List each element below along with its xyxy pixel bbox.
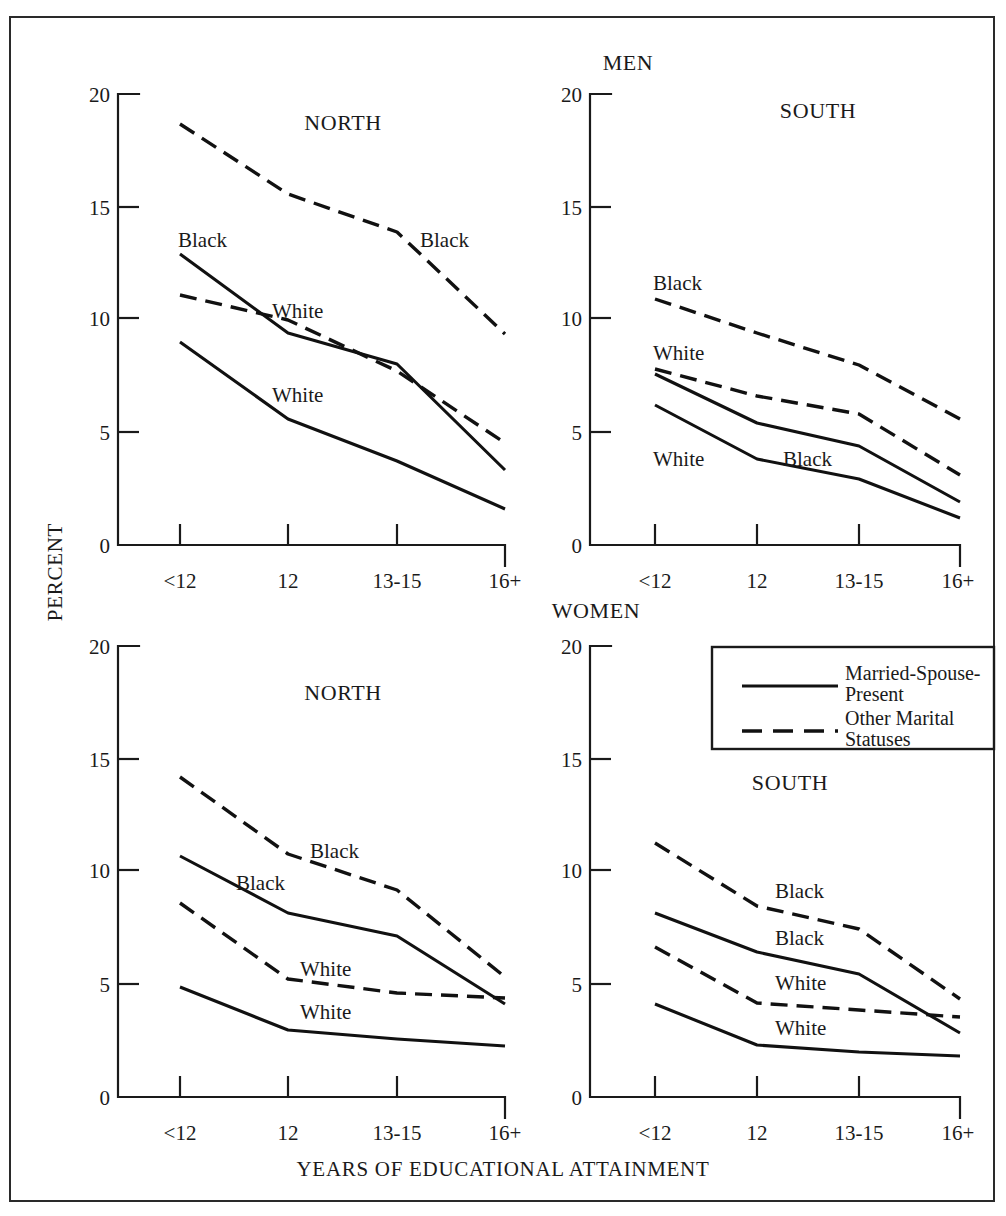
series-white-other-marital bbox=[180, 903, 505, 998]
xtick-label-lt12: <12 bbox=[164, 1121, 197, 1145]
panel-region-title: SOUTH bbox=[752, 770, 828, 795]
xtick-label-13-15: 13-15 bbox=[373, 1121, 422, 1145]
series-label-white-solid: White bbox=[653, 447, 704, 471]
ytick-label-5: 5 bbox=[572, 973, 583, 997]
series-label-black-solid: Black bbox=[775, 926, 824, 950]
ytick-label-15: 15 bbox=[89, 196, 110, 220]
xtick-label-13-15: 13-15 bbox=[835, 1121, 884, 1145]
ytick-label-5: 5 bbox=[572, 421, 583, 445]
series-white-married bbox=[180, 342, 505, 509]
legend-label-married-line2: Present bbox=[845, 683, 904, 705]
ytick-label-0: 0 bbox=[572, 1086, 583, 1110]
xtick-label-lt12: <12 bbox=[639, 1121, 672, 1145]
xtick-label-16plus: 16+ bbox=[942, 569, 975, 593]
panel-region-title: NORTH bbox=[304, 680, 381, 705]
ytick-label-10: 10 bbox=[89, 307, 110, 331]
series-black-other-marital bbox=[180, 777, 505, 977]
ytick-label-15: 15 bbox=[89, 748, 110, 772]
panel-region-title: SOUTH bbox=[780, 98, 856, 123]
series-label-black-dash: Black bbox=[653, 271, 702, 295]
y-axis-title: PERCENT bbox=[43, 523, 67, 621]
ytick-label-10: 10 bbox=[561, 307, 582, 331]
ytick-label-0: 0 bbox=[572, 534, 583, 558]
series-label-black-dash: Black bbox=[310, 839, 359, 863]
x-axis-title: YEARS OF EDUCATIONAL ATTAINMENT bbox=[297, 1157, 710, 1181]
ytick-label-15: 15 bbox=[561, 748, 582, 772]
ytick-label-10: 10 bbox=[89, 859, 110, 883]
ytick-label-5: 5 bbox=[100, 421, 111, 445]
legend: Married-Spouse- Present Other Marital St… bbox=[712, 647, 994, 750]
xtick-label-12: 12 bbox=[747, 1121, 768, 1145]
panel-men-south: 20 15 10 5 0 <12 12 13-15 16+ SOUTH Blac… bbox=[561, 83, 974, 593]
series-black-married bbox=[180, 856, 505, 1004]
panel-women-north: 20 15 10 5 0 <12 12 13-15 16+ NORTH Blac… bbox=[89, 635, 521, 1145]
series-label-white-solid: White bbox=[775, 1016, 826, 1040]
ytick-label-15: 15 bbox=[561, 196, 582, 220]
series-label-black-solid: Black bbox=[236, 871, 285, 895]
ytick-label-20: 20 bbox=[89, 635, 110, 659]
ytick-label-0: 0 bbox=[100, 534, 111, 558]
four-panel-line-chart: MEN WOMEN PERCENT YEARS OF EDUCATIONAL A… bbox=[0, 0, 1006, 1216]
ytick-label-20: 20 bbox=[89, 83, 110, 107]
xtick-label-lt12: <12 bbox=[164, 569, 197, 593]
ytick-label-10: 10 bbox=[561, 859, 582, 883]
ytick-label-5: 5 bbox=[100, 973, 111, 997]
series-label-white-dash: White bbox=[272, 299, 323, 323]
xtick-label-13-15: 13-15 bbox=[835, 569, 884, 593]
xtick-label-12: 12 bbox=[278, 569, 299, 593]
series-label-black-solid: Black bbox=[783, 447, 832, 471]
xtick-label-lt12: <12 bbox=[639, 569, 672, 593]
group-title-women: WOMEN bbox=[552, 598, 641, 623]
series-label-black-left: Black bbox=[178, 228, 227, 252]
series-label-white-solid: White bbox=[272, 383, 323, 407]
series-label-white-solid: White bbox=[300, 1000, 351, 1024]
legend-label-other-line1: Other Marital bbox=[845, 707, 955, 729]
panel-axes-women-north bbox=[118, 646, 505, 1118]
panel-region-title: NORTH bbox=[304, 110, 381, 135]
panel-men-north: 20 15 10 5 0 <12 12 13-15 16+ NORTH Blac… bbox=[89, 83, 521, 593]
legend-label-other-line2: Statuses bbox=[845, 728, 911, 750]
series-label-white-dash: White bbox=[653, 341, 704, 365]
xtick-label-12: 12 bbox=[278, 1121, 299, 1145]
group-title-men: MEN bbox=[603, 50, 654, 75]
series-label-white-dash: White bbox=[300, 957, 351, 981]
xtick-label-16plus: 16+ bbox=[489, 569, 522, 593]
ytick-label-0: 0 bbox=[100, 1086, 111, 1110]
legend-label-married-line1: Married-Spouse- bbox=[845, 662, 981, 685]
series-label-black-dash: Black bbox=[775, 879, 824, 903]
ytick-label-20: 20 bbox=[561, 83, 582, 107]
series-label-black-right: Black bbox=[420, 228, 469, 252]
xtick-label-16plus: 16+ bbox=[489, 1121, 522, 1145]
ytick-label-20: 20 bbox=[561, 635, 582, 659]
xtick-label-16plus: 16+ bbox=[942, 1121, 975, 1145]
series-label-white-dash: White bbox=[775, 971, 826, 995]
xtick-label-12: 12 bbox=[747, 569, 768, 593]
xtick-label-13-15: 13-15 bbox=[373, 569, 422, 593]
